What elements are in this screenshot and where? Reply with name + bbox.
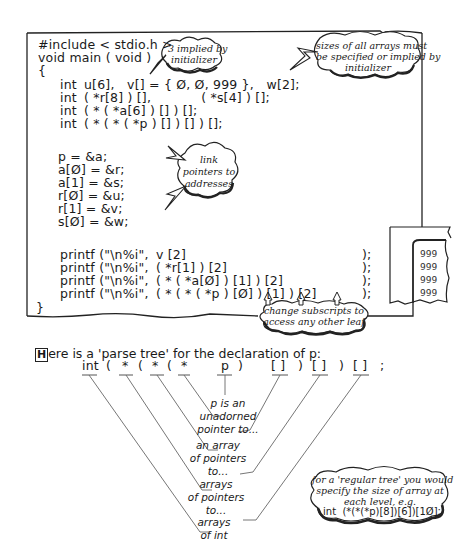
printf-expr: ( * ( * ( *p ) [Ø] ) [1] ) [2] [156,287,317,300]
tree-token-paren: ( [167,359,172,372]
tree-token-int: int [82,359,99,372]
tree-label-arrays-of-pointers: arrays of pointers to... [184,478,248,517]
tree-token-semicolon: ; [380,359,384,372]
tree-token-star: * [181,359,187,372]
tree-token-paren: ) [339,359,344,372]
callout-regular-tree: for a 'regular tree' you would specify t… [312,474,448,507]
tree-token-brackets: [ ] [271,359,285,372]
decl-p: ( * ( * ( *p ) [] ) [] ) []; [84,117,223,130]
tree-label-array-of-pointers: an array of pointers to... [186,439,250,478]
open-brace: { [38,64,46,77]
tree-token-paren: ( [106,359,111,372]
tree-token-paren: ( [138,359,143,372]
tree-token-paren: ) [238,359,243,372]
decl-kw-3: int [60,117,77,130]
output-line: 999 [420,248,437,261]
tree-label-pointer: p is an unadorned pointer to... [196,397,260,436]
tree-token-star: * [152,359,158,372]
tree-label-arrays-of-int: arrays of int [186,516,242,542]
assign-line: s[Ø] = &w; [58,215,129,228]
tree-token-star: * [122,359,128,372]
tree-token-brackets: [ ] [312,359,326,372]
tree-token-brackets: [ ] [353,359,367,372]
output-line: 999 [420,287,437,300]
callout-implied-by-initializer: 3 implied by initializer [168,43,220,65]
printf-end: ); [362,287,372,300]
output-line: 999 [420,261,437,274]
close-brace: } [36,301,44,314]
callout-array-sizes: sizes of all arrays must be specified or… [316,40,420,73]
callout-regular-tree-code: int (*(*(*p)[8])[6])[1Ø]; [322,506,442,517]
drop-cap: H [35,348,48,362]
callout-link-pointers: link pointers to addresses [180,154,238,190]
tree-token-paren: ) [298,359,303,372]
callout-change-subscripts: change subscripts to access any other le… [262,305,366,327]
tree-token-p: p [221,359,229,372]
main-signature: void main ( void ) [38,51,151,64]
output-line: 999 [420,274,437,287]
printf-fn: printf ("\n%i", [60,287,149,300]
